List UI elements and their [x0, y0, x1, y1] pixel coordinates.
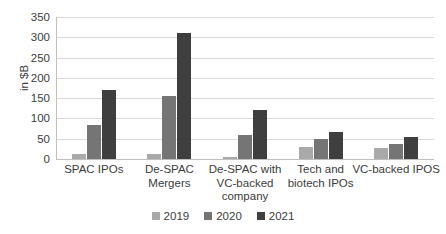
y-axis-tick-label: 300 [6, 31, 50, 43]
x-axis-category-label-line: biotech IPOs [277, 177, 365, 191]
legend-item[interactable]: 2020 [204, 210, 242, 222]
bar [299, 147, 313, 159]
bar-group [72, 17, 116, 159]
legend-label: 2019 [164, 210, 190, 222]
bar-group [374, 17, 418, 159]
x-axis-category-label-line: VC-backed [201, 177, 289, 191]
x-axis-category-label-line: SPAC IPOs [50, 163, 138, 177]
x-axis-category-label: SPAC IPOs [50, 163, 138, 177]
bar [238, 135, 252, 159]
legend-item[interactable]: 2019 [152, 210, 190, 222]
plot-area [56, 17, 434, 159]
legend-swatch-icon [204, 212, 212, 220]
bar [162, 96, 176, 159]
bar [223, 157, 237, 159]
x-axis-category-label-line: Tech and [277, 163, 365, 177]
bar-group [299, 17, 343, 159]
legend-swatch-icon [257, 212, 265, 220]
x-axis-category-label-line: Mergers [126, 177, 214, 191]
x-axis-category-label-line: company [201, 190, 289, 204]
bar [102, 90, 116, 159]
bar [389, 144, 403, 159]
bar [72, 154, 86, 159]
legend-item[interactable]: 2021 [257, 210, 295, 222]
y-axis-tick-label: 100 [6, 112, 50, 124]
bar-group [147, 17, 191, 159]
x-axis-category-label: Tech andbiotech IPOs [277, 163, 365, 190]
x-axis-category-labels: SPAC IPOsDe-SPACMergersDe-SPAC withVC-ba… [56, 163, 434, 211]
bar [253, 110, 267, 159]
y-axis-tick-label: 350 [6, 11, 50, 23]
x-axis-category-label: VC-backed IPOS [352, 163, 440, 177]
y-axis-tick-label: 50 [6, 133, 50, 145]
legend-label: 2021 [269, 210, 295, 222]
y-axis-line [56, 17, 57, 160]
y-axis-tick-label: 0 [6, 153, 50, 165]
bar [329, 132, 343, 159]
gridline [56, 159, 434, 160]
bar [147, 154, 161, 159]
bar [314, 139, 328, 159]
x-axis-category-label: De-SPAC withVC-backedcompany [201, 163, 289, 204]
x-axis-category-label-line: VC-backed IPOS [352, 163, 440, 177]
x-axis-category-label-line: De-SPAC [126, 163, 214, 177]
legend-swatch-icon [152, 212, 160, 220]
bar [404, 137, 418, 159]
legend-label: 2020 [216, 210, 242, 222]
y-axis-title: in $B [18, 48, 30, 108]
x-axis-category-label-line: De-SPAC with [201, 163, 289, 177]
bar [374, 148, 388, 159]
x-axis-category-label: De-SPACMergers [126, 163, 214, 190]
bar-group [223, 17, 267, 159]
bar [87, 125, 101, 159]
bar-chart: 050100150200250300350 in $B SPAC IPOsDe-… [0, 0, 446, 234]
bar [177, 33, 191, 159]
legend: 201920202021 [0, 210, 446, 222]
